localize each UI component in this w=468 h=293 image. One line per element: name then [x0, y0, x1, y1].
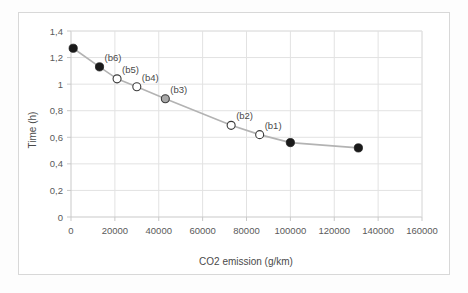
- data-point-annotation: (b5): [122, 64, 139, 75]
- data-point-marker: [95, 63, 103, 71]
- data-point-marker: [227, 121, 235, 129]
- scatter-line-chart: (b6)(b5)(b4)(b3)(b2)(b1) 020000400006000…: [0, 0, 468, 293]
- x-tick-label: 100000: [275, 225, 307, 236]
- y-tick-label: 0: [58, 212, 63, 223]
- x-tick-label: 40000: [146, 225, 172, 236]
- data-point-annotation: (b3): [170, 84, 187, 95]
- figure-canvas: (b6)(b5)(b4)(b3)(b2)(b1) 020000400006000…: [0, 0, 468, 293]
- series-polyline: [73, 48, 358, 148]
- data-point-annotation: (b2): [236, 110, 253, 121]
- data-point-marker: [69, 44, 77, 52]
- series-line-group: [73, 48, 358, 148]
- data-point-marker: [133, 83, 141, 91]
- data-point-marker: [161, 95, 169, 103]
- x-tick-label: 80000: [233, 225, 259, 236]
- y-tick-label: 1,2: [50, 52, 63, 63]
- data-point-annotation: (b1): [265, 120, 282, 131]
- x-tick-label: 20000: [102, 225, 128, 236]
- y-tick-label: 0,4: [50, 158, 63, 169]
- x-tick-label: 120000: [318, 225, 350, 236]
- data-point-marker: [286, 139, 294, 147]
- data-point-marker: [256, 131, 264, 139]
- x-axis-title: CO2 emission (g/km): [199, 256, 293, 267]
- data-point-marker: [113, 75, 121, 83]
- x-tick-label: 160000: [406, 225, 438, 236]
- y-tick-label: 0,8: [50, 105, 63, 116]
- data-point-marker: [354, 144, 362, 152]
- gridlines-group: [71, 31, 422, 217]
- point-annotation-group: (b6)(b5)(b4)(b3)(b2)(b1): [105, 52, 282, 131]
- y-tick-label: 0,2: [50, 185, 63, 196]
- data-point-annotation: (b6): [105, 52, 122, 63]
- y-tick-label: 1,4: [50, 26, 63, 37]
- x-tick-label: 60000: [189, 225, 215, 236]
- y-axis-title: Time (h): [27, 112, 38, 149]
- x-tick-label: 0: [68, 225, 73, 236]
- y-tick-label: 1: [58, 79, 63, 90]
- data-point-annotation: (b4): [142, 72, 159, 83]
- y-tick-label: 0,6: [50, 132, 63, 143]
- x-tick-label: 140000: [362, 225, 394, 236]
